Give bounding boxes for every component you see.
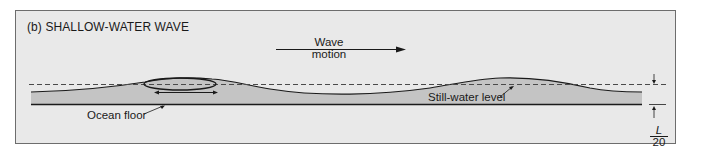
depth-dimension [649,74,666,118]
wave-diagram [0,0,702,155]
ocean-floor-leader [144,106,163,114]
ocean-floor-label: Ocean floor [87,109,146,121]
wave-motion-label-line2: motion [300,48,358,60]
wave-motion-label: Wave motion [300,36,358,60]
wave-motion-label-line1: Wave [300,36,358,48]
depth-fraction: L 20 [650,125,668,148]
water-body [31,78,642,105]
still-water-level-label: Still-water level [428,91,505,103]
depth-fraction-denominator: 20 [650,137,668,148]
